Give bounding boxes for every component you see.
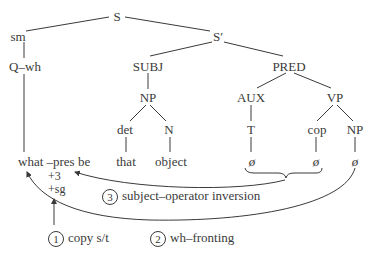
circled-number-2: 2 (150, 231, 166, 247)
node-N: N (164, 123, 173, 136)
circled-number-3: 3 (102, 189, 118, 205)
operation-3-label: 3subject–operator inversion (102, 189, 260, 205)
node-NP-subj: NP (140, 91, 157, 104)
operation-1-label: 1copy s/t (48, 231, 109, 247)
empty-cop: ø (313, 155, 320, 168)
node-SUBJ: SUBJ (133, 60, 163, 73)
node-AUX: AUX (237, 91, 265, 104)
node-PRED: PRED (272, 60, 305, 73)
operation-2-label: 2wh–fronting (150, 231, 234, 247)
node-S-bar: S′ (213, 30, 223, 43)
leaf-object: object (155, 155, 187, 168)
node-det: det (117, 123, 133, 136)
empty-T: ø (249, 155, 256, 168)
node-cop: cop (308, 123, 327, 136)
leaf-surface-string: what –pres be (18, 155, 90, 168)
node-sm: sm (10, 30, 25, 43)
node-NP-obj: NP (347, 123, 364, 136)
leaf-that: that (116, 155, 136, 168)
circled-number-1: 1 (48, 231, 64, 247)
node-S: S (113, 10, 120, 23)
feature-number: +sg (48, 183, 65, 196)
node-T: T (247, 123, 255, 136)
empty-NP: ø (352, 155, 359, 168)
node-VP: VP (327, 91, 344, 104)
node-Q-wh: Q–wh (9, 60, 41, 73)
